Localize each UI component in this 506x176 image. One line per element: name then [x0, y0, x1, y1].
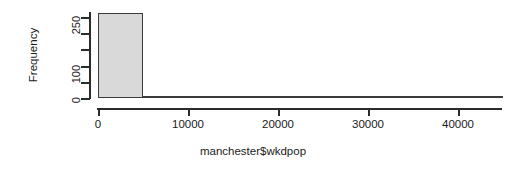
- x-axis-tick-label: 10000: [172, 118, 204, 130]
- x-axis-tick: [278, 108, 280, 116]
- x-axis-title: manchester$wkdpop: [0, 145, 506, 157]
- x-axis-tick-label: 40000: [442, 118, 474, 130]
- y-axis-tick: [81, 49, 90, 51]
- histogram-bar: [458, 96, 503, 98]
- histogram-bar: [98, 13, 143, 98]
- histogram-bar: [413, 96, 458, 98]
- x-axis-tick: [368, 108, 370, 116]
- y-axis-title: Frequency: [26, 0, 40, 110]
- histogram-figure: Frequency 0100250 010000200003000040000 …: [0, 0, 506, 176]
- y-axis-title-label: Frequency: [27, 28, 39, 82]
- y-axis-tick: [81, 98, 90, 100]
- x-axis-line: [97, 108, 502, 110]
- histogram-bar: [323, 96, 368, 98]
- y-axis-line: [89, 12, 91, 99]
- x-axis-tick: [458, 108, 460, 116]
- x-axis-tick-label: 30000: [352, 118, 384, 130]
- x-axis-tick: [188, 108, 190, 116]
- histogram-bar: [368, 96, 413, 98]
- histogram-bar: [188, 96, 233, 98]
- x-axis-tick-label: 0: [95, 118, 101, 130]
- plot-area: [98, 10, 500, 98]
- x-axis-tick-label: 20000: [262, 118, 294, 130]
- histogram-bar: [278, 96, 323, 98]
- x-axis-tick: [98, 108, 100, 116]
- histogram-bar: [143, 96, 188, 98]
- x-axis-title-label: manchester$wkdpop: [200, 145, 306, 157]
- histogram-bar: [233, 96, 278, 98]
